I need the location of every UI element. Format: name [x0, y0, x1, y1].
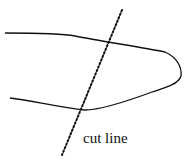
- cut-line-label: cut line: [83, 130, 128, 147]
- shape-outline: [5, 33, 181, 110]
- diagram: cut line: [0, 0, 187, 160]
